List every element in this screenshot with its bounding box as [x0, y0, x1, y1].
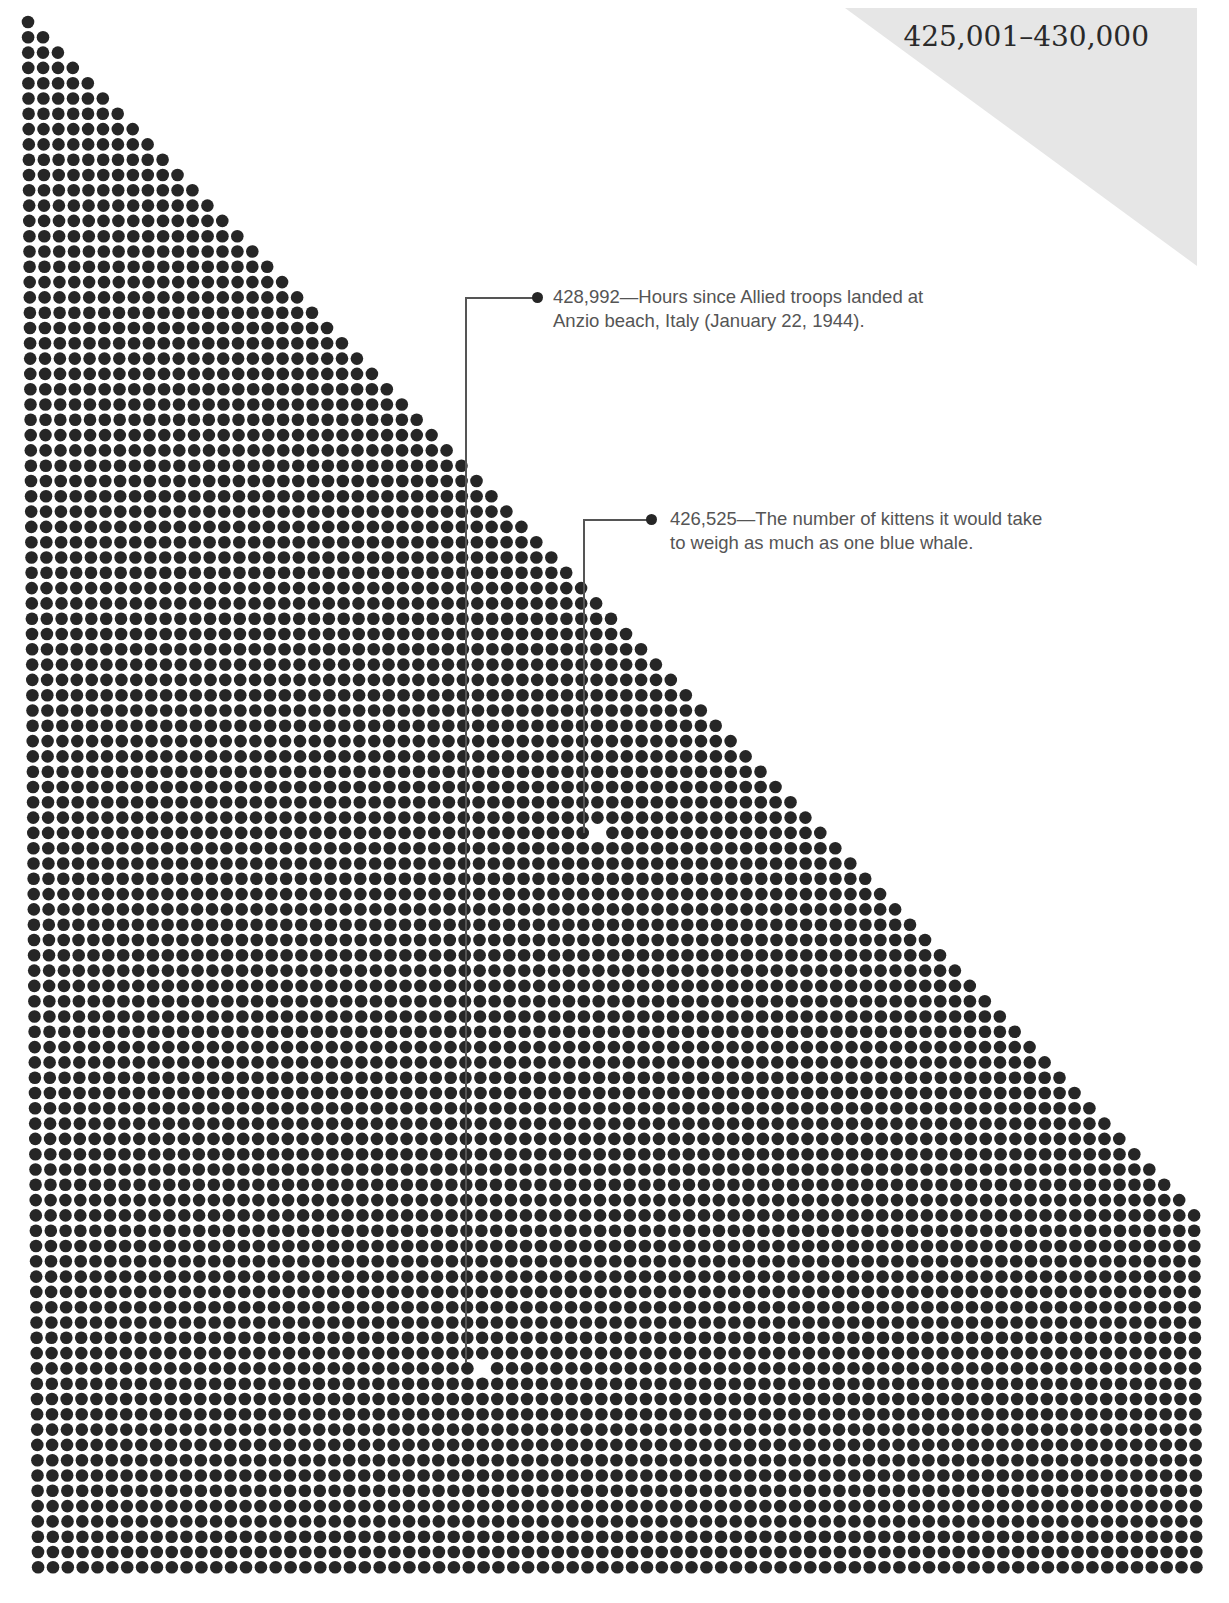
leader-line-horizontal-426525	[583, 519, 649, 521]
callout-line1: 426,525—The number of kittens it would t…	[670, 507, 1042, 531]
callout-428992: 428,992—Hours since Allied troops landed…	[553, 285, 923, 333]
dot-grid	[0, 0, 1229, 1603]
callout-line1: 428,992—Hours since Allied troops landed…	[553, 285, 923, 309]
callout-line2: to weigh as much as one blue whale.	[670, 531, 1042, 555]
callout-bullet-icon	[646, 514, 657, 525]
leader-line-horizontal-428992	[465, 297, 535, 299]
callout-426525: 426,525—The number of kittens it would t…	[670, 507, 1042, 555]
callout-line2: Anzio beach, Italy (January 22, 1944).	[553, 309, 923, 333]
leader-line-vertical-428992	[465, 297, 467, 1363]
callout-bullet-icon	[532, 292, 543, 303]
dot-matrix-page: 425,001–430,000 428,992—Hours since Alli…	[0, 0, 1229, 1603]
leader-line-vertical-426525	[583, 519, 585, 833]
